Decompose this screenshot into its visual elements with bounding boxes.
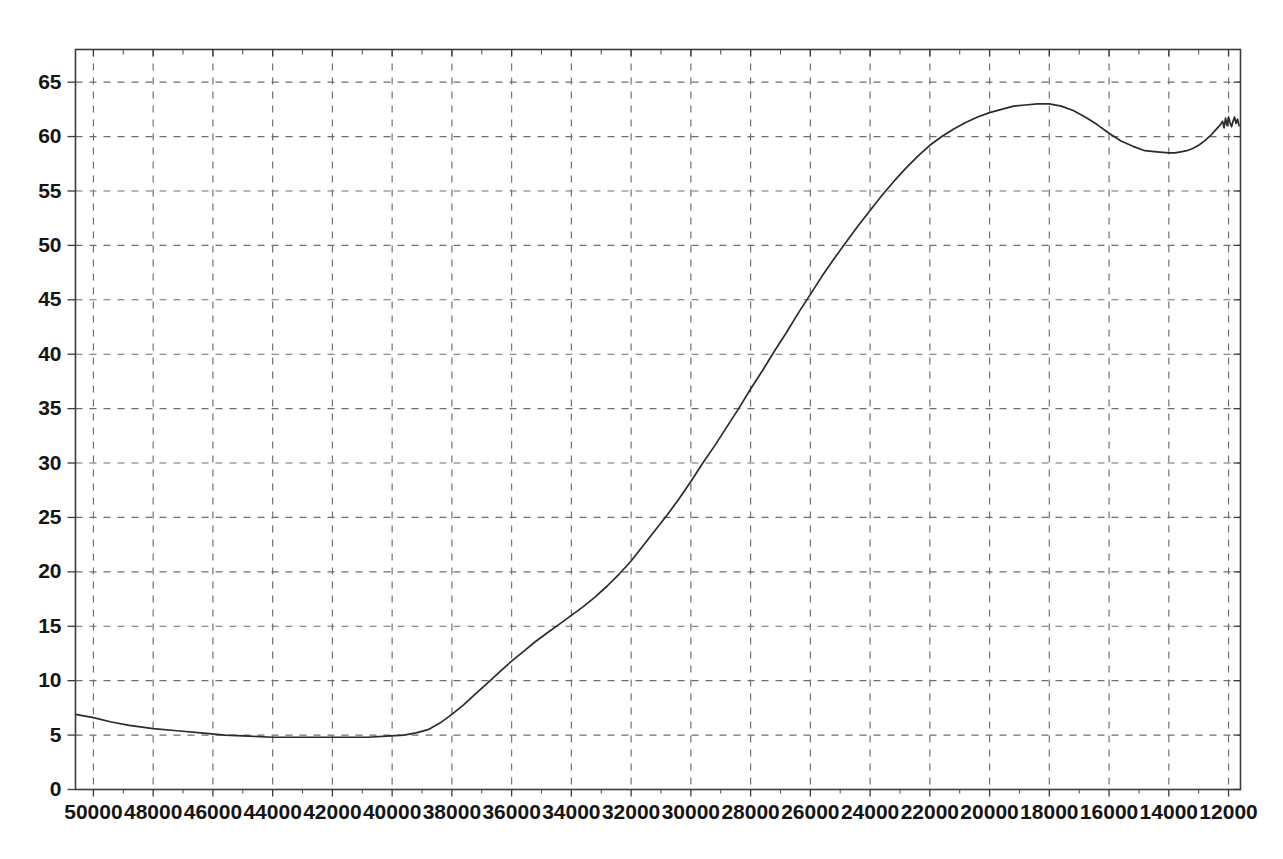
y-tick-label: 10 <box>38 668 61 691</box>
plot-frame <box>76 50 1241 790</box>
chart-container: 5000048000460004400042000400003800036000… <box>0 0 1283 859</box>
grid-layer <box>76 50 1241 790</box>
x-tick-label: 40000 <box>363 800 421 823</box>
plot-border <box>76 50 1241 790</box>
y-tick-label: 60 <box>38 124 61 147</box>
y-tick-label: 25 <box>38 505 62 528</box>
y-tick-label: 40 <box>38 342 61 365</box>
x-tick-label: 38000 <box>423 800 481 823</box>
x-tick-label: 48000 <box>124 800 182 823</box>
x-tick-label: 14000 <box>1140 800 1198 823</box>
x-tick-label: 12000 <box>1199 800 1257 823</box>
y-tick-label: 50 <box>38 233 61 256</box>
x-tick-label: 34000 <box>542 800 600 823</box>
tick-labels-layer: 5000048000460004400042000400003800036000… <box>38 70 1258 823</box>
x-tick-label: 24000 <box>841 800 899 823</box>
y-tick-label: 15 <box>38 614 62 637</box>
y-tick-label: 55 <box>38 179 62 202</box>
y-tick-label: 35 <box>38 396 62 419</box>
x-tick-label: 32000 <box>602 800 660 823</box>
y-tick-label: 65 <box>38 70 62 93</box>
x-tick-label: 50000 <box>64 800 122 823</box>
x-tick-label: 26000 <box>781 800 839 823</box>
x-tick-label: 22000 <box>901 800 959 823</box>
x-tick-label: 30000 <box>662 800 720 823</box>
x-tick-label: 16000 <box>1080 800 1138 823</box>
x-tick-label: 42000 <box>303 800 361 823</box>
data-series-layer <box>76 104 1240 737</box>
y-tick-label: 20 <box>38 559 61 582</box>
x-tick-label: 18000 <box>1020 800 1078 823</box>
y-tick-label: 0 <box>50 777 62 800</box>
x-tick-label: 28000 <box>721 800 779 823</box>
x-tick-label: 46000 <box>184 800 242 823</box>
line-chart: 5000048000460004400042000400003800036000… <box>0 0 1283 859</box>
x-tick-label: 36000 <box>482 800 540 823</box>
x-tick-label: 44000 <box>243 800 301 823</box>
tick-marks-layer <box>68 50 1241 797</box>
data-curve-transmittance <box>76 104 1240 737</box>
y-tick-label: 45 <box>38 287 62 310</box>
y-tick-label: 5 <box>50 723 62 746</box>
x-tick-label: 20000 <box>960 800 1018 823</box>
y-tick-label: 30 <box>38 451 61 474</box>
